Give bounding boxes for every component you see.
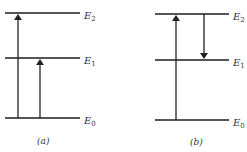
label-e1-a: E1 (83, 55, 96, 68)
label-e0-a: E0 (83, 115, 96, 128)
caption-a: (a) (37, 136, 50, 146)
caption-b: (b) (190, 137, 203, 147)
label-e0-b: E0 (232, 117, 245, 130)
label-e2-a: E2 (83, 10, 96, 23)
energy-level-diagram: E2 E1 E0 (a) E2 E1 E0 (b) (0, 0, 247, 152)
panel-a: E2 E1 E0 (a) (5, 10, 96, 146)
label-e2-b: E2 (232, 11, 245, 24)
panel-b: E2 E1 E0 (b) (155, 11, 245, 147)
label-e1-b: E1 (232, 57, 245, 70)
